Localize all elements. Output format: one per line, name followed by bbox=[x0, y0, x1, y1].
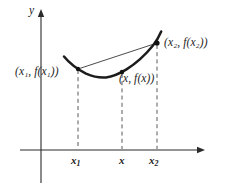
dashed-drop-lines bbox=[78, 45, 157, 149]
tick-label-x: x bbox=[119, 155, 125, 168]
left-point-label: (x₁, f(x₁)) bbox=[15, 66, 59, 78]
x-axis bbox=[20, 147, 205, 154]
curve-markers bbox=[76, 40, 160, 74]
y-axis-label: y bbox=[29, 5, 34, 17]
tick-label-x1: x1 bbox=[71, 155, 81, 168]
right-point-label: (x₂, f(x₂)) bbox=[164, 37, 208, 49]
middle-point-label: (x, f(x)) bbox=[119, 73, 154, 85]
y-axis bbox=[38, 9, 44, 183]
tick-x1-subscript: 1 bbox=[77, 159, 81, 168]
y-axis-arrowhead bbox=[38, 9, 44, 17]
point-x1-marker bbox=[76, 67, 80, 71]
point-x2-marker bbox=[154, 40, 159, 45]
convexity-figure: y (x₁, f(x₁)) (x, f(x)) (x₂, f(x₂)) x1 x… bbox=[0, 0, 228, 190]
tick-x-base: x bbox=[119, 154, 125, 166]
tick-x2-subscript: 2 bbox=[155, 159, 159, 168]
x-axis-arrowhead bbox=[197, 147, 205, 154]
tick-label-x2: x2 bbox=[149, 155, 159, 168]
figure-canvas bbox=[0, 0, 228, 190]
